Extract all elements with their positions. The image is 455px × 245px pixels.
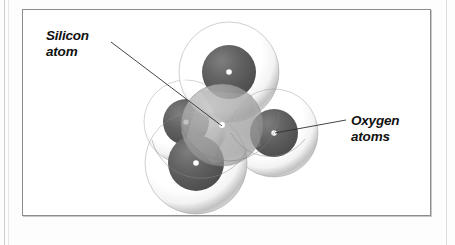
label-oxygen-line-1: Oxygen [351,113,399,129]
label-silicon-line-1: Silicon [46,28,89,44]
label-oxygen-line-2: atoms [351,129,399,145]
label-silicon-line-2: atom [46,44,89,60]
label-silicon-atom: Silicon atom [46,28,89,59]
figure-page: Silicon atom Oxygen atoms [0,0,455,245]
page-edge-rule-right [446,0,447,245]
label-oxygen-atoms: Oxygen atoms [351,113,399,144]
page-edge-rule-left [4,0,5,245]
page-edge-rule-left-2 [8,0,9,245]
